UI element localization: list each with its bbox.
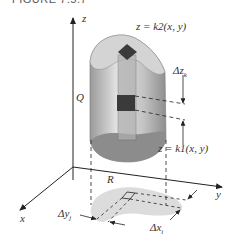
figure-title: FIGURE 7.5.7 bbox=[12, 0, 87, 5]
delta-z-label: Δzk bbox=[173, 64, 187, 79]
region-label: R bbox=[107, 173, 114, 185]
delta-x-label: Δxi bbox=[150, 221, 163, 236]
solid-label: Q bbox=[76, 91, 84, 103]
delta-y-label: Δyj bbox=[58, 207, 71, 222]
bottom-surface-label: z = k1(x, y) bbox=[158, 142, 208, 154]
region-r bbox=[91, 187, 182, 222]
y-axis bbox=[73, 167, 222, 187]
diagram-svg bbox=[0, 0, 238, 245]
x-axis bbox=[20, 167, 73, 210]
z-axis-label: z bbox=[82, 12, 86, 24]
top-surface-label: z = k2(x, y) bbox=[136, 20, 186, 32]
figure: FIGURE 7.5.7 bbox=[0, 0, 238, 245]
x-axis-label: x bbox=[20, 212, 25, 224]
y-axis-label: y bbox=[216, 188, 221, 200]
small-box bbox=[117, 95, 135, 111]
